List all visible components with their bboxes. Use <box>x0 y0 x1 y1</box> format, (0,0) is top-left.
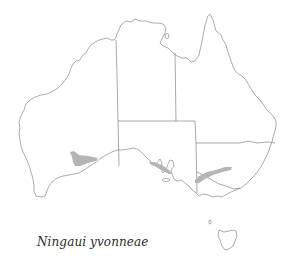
mainland-coastline <box>19 14 276 197</box>
australia-map <box>0 0 293 269</box>
king-island <box>209 220 211 224</box>
map-figure: Ningaui yvonneae <box>0 0 293 269</box>
groote-eylandt <box>165 34 169 39</box>
range-sa <box>149 162 172 174</box>
tasmania-coastline <box>218 230 237 250</box>
species-caption: Ningaui yvonneae <box>37 235 148 249</box>
kangaroo-island <box>162 179 170 182</box>
